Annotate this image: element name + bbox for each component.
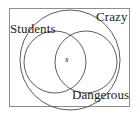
set-label-crazy: Crazy [96,10,128,23]
intersection-label: s [65,55,69,64]
set-label-dangerous: Dangerous [72,88,129,101]
set-label-students: Students [10,22,56,35]
venn-diagram-figure: Students Crazy Dangerous s [0,0,140,117]
